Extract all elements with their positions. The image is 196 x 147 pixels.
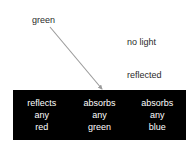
- band-column-green: absorbs any green: [71, 97, 129, 133]
- diagram-canvas: green no light reflected reflects any re…: [0, 0, 196, 147]
- band-column-blue-qualifier: any: [128, 109, 186, 121]
- band-column-green-qualifier: any: [71, 109, 129, 121]
- absorption-band: reflects any red absorbs any green absor…: [13, 90, 186, 140]
- arrow-shaft: [50, 27, 102, 89]
- band-column-red-qualifier: any: [13, 109, 71, 121]
- band-column-blue-color: blue: [128, 121, 186, 133]
- band-column-red-action: reflects: [13, 97, 71, 109]
- band-column-green-action: absorbs: [71, 97, 129, 109]
- no-light-reflected-label-line2: reflected: [127, 70, 162, 81]
- band-column-green-color: green: [71, 121, 129, 133]
- band-column-red: reflects any red: [13, 97, 71, 133]
- band-column-blue-action: absorbs: [128, 97, 186, 109]
- incoming-light-label: green: [32, 15, 55, 26]
- no-light-reflected-label-line1: no light: [127, 37, 162, 48]
- band-column-blue: absorbs any blue: [128, 97, 186, 133]
- band-column-red-color: red: [13, 121, 71, 133]
